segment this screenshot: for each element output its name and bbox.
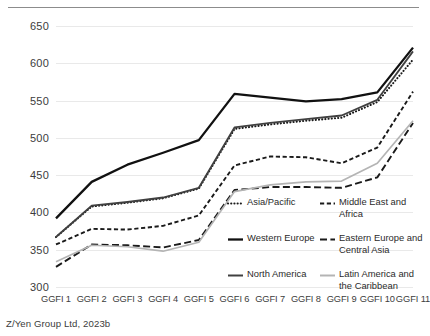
y-axis-tick-label: 450 bbox=[30, 169, 49, 181]
y-axis-tick-label: 650 bbox=[30, 20, 49, 32]
legend-row: Western EuropeEastern Europe and Central… bbox=[228, 232, 424, 255]
legend-item[interactable]: Western Europe bbox=[228, 232, 320, 244]
legend-row: Asia/PacificMiddle East and Africa bbox=[228, 196, 424, 219]
legend-row: North AmericaLatin America and the Carib… bbox=[228, 268, 424, 291]
dash-line-key bbox=[320, 235, 335, 244]
y-axis-tick-label: 350 bbox=[30, 244, 49, 256]
legend-item[interactable]: North America bbox=[228, 268, 320, 280]
x-axis-tick-label: GGFI 2 bbox=[77, 294, 107, 304]
short-dash-line-key bbox=[320, 199, 335, 208]
legend-item-label: Western Europe bbox=[247, 232, 315, 244]
y-axis-tick-label: 400 bbox=[30, 206, 49, 218]
y-axis-tick-label: 550 bbox=[30, 95, 49, 107]
y-axis-tick-label: 300 bbox=[30, 281, 49, 293]
header-divider bbox=[8, 7, 419, 8]
legend-item-label: Asia/Pacific bbox=[247, 196, 295, 208]
solid-thick-line-key bbox=[228, 235, 243, 244]
x-axis-tick-label: GGFI 4 bbox=[148, 294, 178, 304]
x-axis-tick-label: GGFI 1 bbox=[41, 294, 71, 304]
solid-line-key bbox=[228, 271, 243, 280]
y-axis-tick-label: 500 bbox=[30, 132, 49, 144]
legend-item-label: Latin America and the Caribbean bbox=[339, 268, 424, 291]
legend-item[interactable]: Asia/Pacific bbox=[228, 196, 320, 208]
source-caption: Z/Yen Group Ltd, 2023b bbox=[6, 318, 110, 329]
chart-legend: Asia/PacificMiddle East and AfricaWester… bbox=[228, 196, 424, 304]
solid-light-line-key bbox=[320, 271, 335, 280]
dotted-line-key bbox=[228, 199, 243, 208]
y-axis-tick-label: 600 bbox=[30, 57, 49, 69]
x-axis-tick-label: GGFI 3 bbox=[112, 294, 142, 304]
legend-item[interactable]: Latin America and the Caribbean bbox=[320, 268, 424, 291]
legend-item[interactable]: Eastern Europe and Central Asia bbox=[320, 232, 424, 255]
legend-item-label: North America bbox=[247, 268, 306, 280]
x-axis-tick-label: GGFI 5 bbox=[184, 294, 214, 304]
legend-item[interactable]: Middle East and Africa bbox=[320, 196, 424, 219]
legend-item-label: Middle East and Africa bbox=[339, 196, 424, 219]
legend-item-label: Eastern Europe and Central Asia bbox=[339, 232, 424, 255]
